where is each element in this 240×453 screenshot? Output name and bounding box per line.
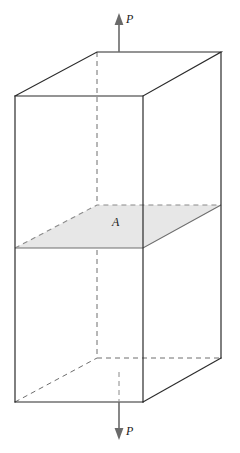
force-label-bottom: P: [126, 425, 133, 437]
arrow-down-head: [115, 428, 124, 440]
arrow-down-icon: [115, 402, 124, 440]
prismatic-bar-diagram: [0, 0, 240, 453]
figure-canvas: P A P: [0, 0, 240, 453]
arrow-up-icon: [115, 13, 124, 52]
force-label-top: P: [126, 13, 133, 25]
edge-bottom-right-receding: [143, 358, 221, 402]
arrow-up-head: [115, 13, 124, 25]
hidden-edge-bottom-left-receding: [15, 358, 97, 402]
cross-section-label: A: [112, 216, 119, 228]
edge-top-face: [15, 52, 221, 96]
